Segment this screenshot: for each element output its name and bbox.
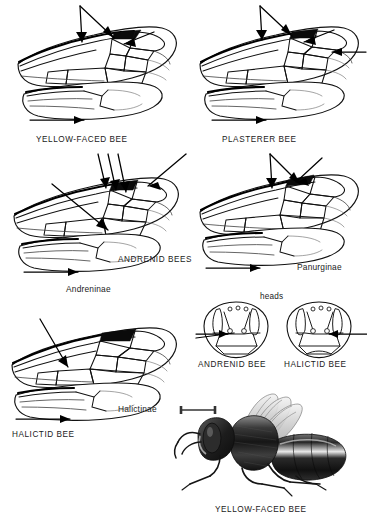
panel-plasterer-bee	[192, 2, 367, 127]
panel-yellow-faced-bee	[8, 2, 186, 127]
bee-habitus-illustration	[168, 392, 364, 502]
illustration-plate: YELLOW-FACED BEE	[0, 0, 367, 527]
panel-panurginae	[192, 150, 367, 272]
wing-diagram-halictinae	[6, 305, 184, 427]
head-label-andrenid-bee: ANDRENID BEE	[198, 360, 266, 369]
habitus-label-yellow-faced-bee: YELLOW-FACED BEE	[215, 505, 306, 514]
panel-label-plasterer-bee: PLASTERER BEE	[222, 135, 297, 144]
wing-diagram-panurginae	[192, 150, 367, 272]
bee-thorax	[230, 416, 279, 471]
head-diagram-halictid	[283, 300, 355, 358]
panel-sublabel-halictinae: Halictinae	[118, 404, 157, 414]
bee-eye	[203, 423, 221, 453]
panel-label-panurginae: Panurginae	[297, 262, 342, 272]
bee-antennae	[175, 432, 201, 458]
head-label-halictid-bee: HALICTID BEE	[284, 360, 347, 369]
panel-sublabel-andreninae: Andreninae	[66, 284, 111, 294]
bee-abdomen	[271, 434, 346, 480]
head-halictid-bee	[283, 300, 355, 358]
panel-label-andrenid-bees: ANDRENID BEES	[118, 255, 192, 264]
wing-diagram-plasterer-bee	[192, 2, 367, 127]
panel-label-yellow-faced-bee: YELLOW-FACED BEE	[36, 135, 127, 144]
panel-halictid-bee	[6, 305, 184, 427]
wing-diagram-yellow-faced-bee	[8, 2, 186, 127]
head-diagram-andrenid	[200, 300, 272, 358]
panel-label-halictid-bee: HALICTID BEE	[12, 430, 75, 439]
head-andrenid-bee	[200, 300, 272, 358]
